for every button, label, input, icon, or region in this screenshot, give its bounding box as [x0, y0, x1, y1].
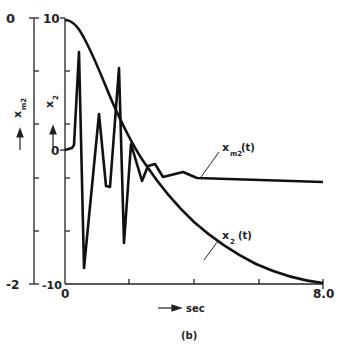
x2-axis-title: x 2 [43, 95, 60, 108]
x2-axis-zero-label: 0 [51, 144, 59, 158]
up-arrow-icon [17, 129, 23, 150]
time-axis-title: sec [186, 303, 205, 314]
xm2-axis-top-label: 0 [6, 11, 15, 26]
xm2-axis-bottom-label: -2 [6, 278, 19, 292]
svg-text:(t): (t) [238, 230, 252, 241]
time-axis [65, 279, 323, 289]
time-axis-start-label: 0 [61, 287, 69, 301]
x2-axis [60, 18, 70, 284]
xm2-curve-label: x m2 (t) [222, 141, 255, 158]
time-axis-end-label: 8.0 [313, 287, 334, 301]
x2-leader-line [204, 241, 218, 260]
figure-caption: (b) [181, 330, 197, 341]
svg-text:m2: m2 [20, 98, 28, 110]
chart: 0 -2 x m2 10 0 -10 x 2 0 8.0 [0, 0, 346, 347]
svg-text:(t): (t) [241, 142, 255, 153]
svg-text:2: 2 [52, 95, 60, 100]
x2-axis-top-label: 10 [43, 12, 60, 26]
x2-curve-label: x 2 (t) [222, 229, 252, 246]
xm2-axis-title: x m2 [11, 98, 28, 118]
xm2-axis [29, 18, 39, 284]
svg-text:x: x [222, 141, 229, 154]
svg-text:x: x [11, 111, 24, 118]
xm2-leader-line [201, 152, 219, 177]
svg-text:x: x [43, 101, 56, 108]
x2-axis-bottom-label: -10 [42, 279, 62, 292]
right-arrow-icon [158, 305, 181, 311]
svg-text:2: 2 [230, 238, 235, 246]
svg-text:x: x [222, 229, 229, 242]
